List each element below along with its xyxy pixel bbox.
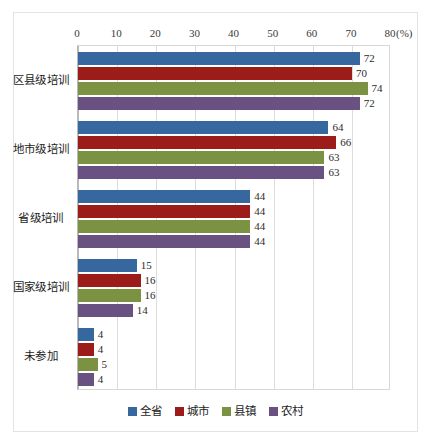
category-label-1: 区县级培训: [5, 73, 77, 87]
bar-row: 44: [78, 190, 389, 203]
bar-row: 4: [78, 328, 389, 341]
x-tick-label-10: 10: [111, 26, 122, 40]
category-axis-labels: 区县级培训地市级培训省级培训国家级培训未参加: [0, 45, 77, 390]
bar-row: 72: [78, 97, 389, 110]
bar-全省-国家级培训[interactable]: [78, 259, 137, 272]
bar-value-label: 4: [94, 327, 104, 341]
bar-row: 70: [78, 67, 389, 80]
bar-value-label: 44: [250, 204, 265, 218]
bar-row: 64: [78, 121, 389, 134]
bar-value-label: 72: [360, 51, 375, 65]
bar-row: 72: [78, 52, 389, 65]
bar-县镇-地市级培训[interactable]: [78, 151, 324, 164]
x-axis-unit-label: (%): [396, 26, 413, 40]
bar-row: 15: [78, 259, 389, 272]
bar-农村-国家级培训[interactable]: [78, 304, 133, 317]
bar-group-1: 72707472: [78, 52, 389, 112]
bar-row: 4: [78, 373, 389, 386]
bar-row: 5: [78, 358, 389, 371]
bar-城市-省级培训[interactable]: [78, 205, 250, 218]
legend-swatch-icon: [269, 407, 278, 416]
x-tick-label-70: 70: [345, 26, 356, 40]
legend-swatch-icon: [128, 407, 137, 416]
bar-全省-省级培训[interactable]: [78, 190, 250, 203]
bar-全省-地市级培训[interactable]: [78, 121, 328, 134]
bar-value-label: 74: [368, 81, 383, 95]
legend-item-2[interactable]: 城市: [175, 404, 209, 418]
category-label-3: 省级培训: [5, 211, 77, 225]
plot-area: 727074726466636344444444151616144454: [77, 45, 390, 390]
category-label-2: 地市级培训: [5, 142, 77, 156]
bar-县镇-未参加[interactable]: [78, 358, 98, 371]
bar-group-3: 44444444: [78, 190, 389, 250]
category-label-4: 国家级培训: [5, 280, 77, 294]
bar-全省-区县级培训[interactable]: [78, 52, 360, 65]
bar-row: 4: [78, 343, 389, 356]
bar-value-label: 44: [250, 219, 265, 233]
bar-县镇-国家级培训[interactable]: [78, 289, 141, 302]
bar-row: 66: [78, 136, 389, 149]
bar-value-label: 16: [141, 288, 156, 302]
bar-value-label: 4: [94, 342, 104, 356]
bar-全省-未参加[interactable]: [78, 328, 94, 341]
legend-label: 城市: [187, 404, 209, 418]
bar-城市-国家级培训[interactable]: [78, 274, 141, 287]
bar-value-label: 63: [324, 165, 339, 179]
legend-swatch-icon: [222, 407, 231, 416]
bar-农村-区县级培训[interactable]: [78, 97, 360, 110]
bar-城市-未参加[interactable]: [78, 343, 94, 356]
bar-value-label: 70: [352, 66, 367, 80]
bar-group-5: 4454: [78, 328, 389, 388]
bar-row: 63: [78, 151, 389, 164]
bar-chart-figure: 01020304050607080 (%) 区县级培训地市级培训省级培训国家级培…: [0, 0, 430, 443]
bar-value-label: 63: [324, 150, 339, 164]
legend-item-3[interactable]: 县镇: [222, 404, 256, 418]
x-tick-label-30: 30: [189, 26, 200, 40]
bar-value-label: 64: [328, 120, 343, 134]
chart-legend: 全省城市县镇农村: [0, 402, 430, 420]
bar-农村-地市级培训[interactable]: [78, 166, 324, 179]
bar-value-label: 72: [360, 96, 375, 110]
legend-label: 全省: [140, 404, 162, 418]
bar-value-label: 66: [336, 135, 351, 149]
bar-row: 16: [78, 289, 389, 302]
bar-row: 63: [78, 166, 389, 179]
x-tick-label-0: 0: [74, 26, 80, 40]
bar-县镇-区县级培训[interactable]: [78, 82, 368, 95]
bar-农村-未参加[interactable]: [78, 373, 94, 386]
bar-row: 16: [78, 274, 389, 287]
bar-group-2: 64666363: [78, 121, 389, 181]
legend-label: 农村: [281, 404, 303, 418]
bar-group-4: 15161614: [78, 259, 389, 319]
legend-item-4[interactable]: 农村: [269, 404, 303, 418]
x-axis-tick-labels: 01020304050607080: [0, 26, 430, 44]
x-tick-label-40: 40: [228, 26, 239, 40]
bar-value-label: 15: [137, 258, 152, 272]
bar-row: 14: [78, 304, 389, 317]
x-tick-label-80: 80: [385, 26, 396, 40]
category-label-5: 未参加: [5, 349, 77, 363]
bar-row: 74: [78, 82, 389, 95]
bar-value-label: 5: [98, 357, 108, 371]
bar-row: 44: [78, 220, 389, 233]
bar-县镇-省级培训[interactable]: [78, 220, 250, 233]
bar-value-label: 16: [141, 273, 156, 287]
bar-value-label: 4: [94, 372, 104, 386]
legend-swatch-icon: [175, 407, 184, 416]
bar-value-label: 44: [250, 234, 265, 248]
legend-item-1[interactable]: 全省: [128, 404, 162, 418]
bar-row: 44: [78, 205, 389, 218]
bar-value-label: 14: [133, 303, 148, 317]
legend-label: 县镇: [234, 404, 256, 418]
bar-城市-地市级培训[interactable]: [78, 136, 336, 149]
bar-row: 44: [78, 235, 389, 248]
x-tick-label-20: 20: [150, 26, 161, 40]
bar-value-label: 44: [250, 189, 265, 203]
x-tick-label-50: 50: [267, 26, 278, 40]
x-tick-label-60: 60: [306, 26, 317, 40]
bar-农村-省级培训[interactable]: [78, 235, 250, 248]
bar-城市-区县级培训[interactable]: [78, 67, 352, 80]
